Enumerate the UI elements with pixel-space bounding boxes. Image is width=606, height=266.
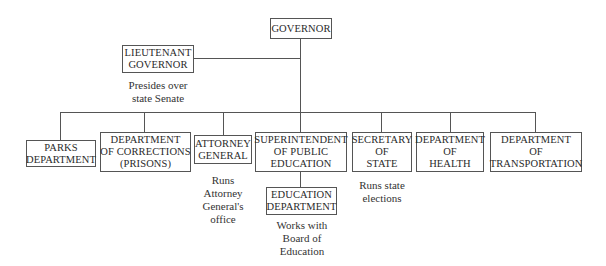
corrections-department-box: DEPARTMENT OF CORRECTIONS (PRISONS) <box>100 132 191 172</box>
attorney-general-box: ATTORNEY GENERAL <box>194 135 252 164</box>
education-department-note: Works with Board of Education <box>262 219 342 258</box>
drop-line-superintendent <box>300 112 301 132</box>
secretary-of-state-note: Runs state elections <box>348 179 416 205</box>
lieutenant-governor-box: LIEUTENANT GOVERNOR <box>122 45 194 73</box>
sub-unit-connector-line <box>300 171 301 187</box>
drop-line-parks <box>60 112 61 140</box>
health-department-box: DEPARTMENT OF HEALTH <box>416 132 484 172</box>
drop-line-transportation <box>535 112 536 132</box>
attorney-general-note: Runs Attorney General's office <box>194 174 252 226</box>
drop-line-attorney-general <box>223 112 224 135</box>
drop-line-health <box>450 112 451 132</box>
drop-line-corrections <box>144 112 145 132</box>
governor-label: GOVERNOR <box>271 23 330 35</box>
drop-line-secretary-of-state <box>381 112 382 132</box>
department-bus-line <box>60 112 536 113</box>
superintendent-box: SUPERINTENDENT OF PUBLIC EDUCATION <box>255 132 347 172</box>
lieutenant-governor-label-line-2: GOVERNOR <box>128 59 187 71</box>
transportation-department-box: DEPARTMENT OF TRANSPORTATION <box>490 132 582 172</box>
lieutenant-connector-line <box>193 58 301 59</box>
parks-department-box: PARKS DEPARTMENT <box>26 140 96 167</box>
secretary-of-state-box: SECRETARY OF STATE <box>352 132 412 172</box>
education-department-box: EDUCATION DEPARTMENT <box>266 187 337 215</box>
lieutenant-governor-label-line-1: LIEUTENANT <box>125 47 192 59</box>
lieutenant-governor-note: Presides over state Senate <box>122 79 194 105</box>
governor-trunk-line <box>300 38 301 112</box>
governor-box: GOVERNOR <box>270 18 332 39</box>
